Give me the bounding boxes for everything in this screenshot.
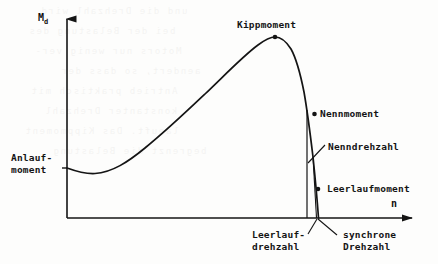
leerlaufmoment-label: Leerlaufmoment: [327, 183, 410, 195]
torque-curve: [67, 37, 319, 218]
nenndrehzahl-label-text: Nenndrehzahl: [328, 141, 399, 152]
leerlaufmoment-label-text: Leerlaufmoment: [327, 183, 410, 194]
leerlaufmoment-marker: [316, 187, 321, 192]
x-axis-label: n: [391, 198, 397, 209]
nennmoment-label-text: Nennmoment: [320, 108, 379, 119]
y-axis-label: Md: [38, 12, 48, 23]
synchrone-drehzahl-label-line2: Drehzahl: [343, 241, 390, 252]
kippmoment-label-text: Kippmoment: [237, 19, 296, 30]
synchrone-drehzahl-label: synchroneDrehzahl: [343, 229, 396, 252]
anlaufmoment-label: Anlauf-moment: [11, 152, 52, 175]
leerlaufdrehzahl-label-line2: drehzahl: [252, 241, 299, 252]
y-axis-label-subscript: d: [44, 18, 48, 26]
leerlaufdrehzahl-label-line1: Leerlauf-: [252, 229, 305, 240]
synchrone-drehzahl-label-line1: synchrone: [343, 229, 396, 240]
anlaufmoment-label-line1: Anlauf-: [11, 152, 52, 163]
synchrone-drehzahl-leader: [318, 219, 337, 235]
kippmoment-marker: [273, 35, 278, 40]
nenndrehzahl-label: Nenndrehzahl: [328, 141, 399, 153]
kippmoment-label: Kippmoment: [237, 19, 296, 31]
torque-speed-plot: [0, 0, 438, 264]
nennmoment-label: Nennmoment: [320, 108, 379, 120]
leerlaufdrehzahl-leader: [308, 219, 317, 234]
leerlaufdrehzahl-label: Leerlauf-drehzahl: [252, 229, 305, 252]
figure-canvas: und die Drehzahl wird bei der Belastung …: [0, 0, 438, 264]
x-axis-label-text: n: [391, 198, 397, 209]
anlaufmoment-label-line2: moment: [11, 164, 47, 175]
nenndrehzahl-leader: [308, 145, 325, 163]
nennmoment-marker: [312, 112, 317, 117]
